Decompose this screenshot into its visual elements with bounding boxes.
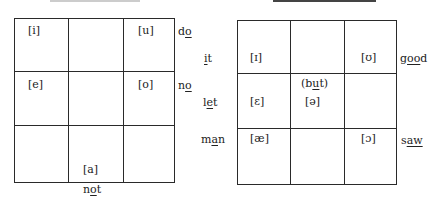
grid-line [15, 71, 174, 72]
word-no: no [178, 79, 192, 92]
grid-line [344, 21, 345, 184]
word-man: man [201, 133, 225, 146]
left-heading-remnant [50, 0, 140, 2]
grid-line [15, 125, 174, 126]
word-let: let [203, 96, 217, 109]
vowel-e: [e] [28, 78, 43, 91]
word-not: not [83, 183, 101, 196]
word-do: do [178, 25, 192, 38]
grid-line [290, 21, 291, 184]
vowel-open-o: [ɔ] [361, 132, 376, 145]
vowel-a: [a] [83, 163, 98, 176]
grid-line [238, 128, 396, 129]
word-good: good [400, 52, 427, 65]
grid-line [238, 73, 396, 74]
label-but: (but) [301, 77, 328, 90]
vowel-i: [i] [28, 24, 40, 37]
vowel-u: [u] [138, 24, 154, 37]
vowel-ae: [æ] [250, 132, 269, 145]
vowel-o: [o] [138, 78, 153, 91]
grid-line [68, 19, 69, 182]
word-saw: saw [401, 134, 423, 147]
right-heading-remnant [273, 0, 376, 2]
left-vowel-grid [14, 18, 175, 183]
grid-line [123, 19, 124, 182]
vowel-small-cap-i: [ɪ] [250, 51, 262, 64]
vowel-epsilon: [ɛ] [250, 95, 264, 108]
vowel-upsilon: [ʊ] [361, 51, 376, 64]
vowel-schwa: [ə] [305, 95, 320, 108]
word-it: it [204, 52, 212, 65]
